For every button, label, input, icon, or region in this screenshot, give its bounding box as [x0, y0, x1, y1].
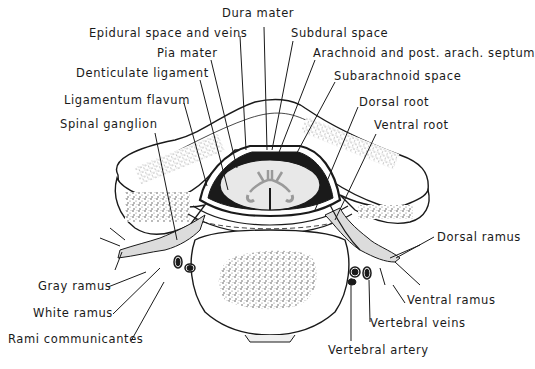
label-ventral-ramus: Ventral ramus	[407, 294, 496, 307]
label-dura-mater: Dura mater	[222, 7, 294, 20]
label-subdural-space: Subdural space	[291, 27, 388, 40]
label-gray-ramus: Gray ramus	[38, 280, 111, 293]
label-white-ramus: White ramus	[33, 307, 113, 320]
vertebral-body	[191, 230, 349, 342]
label-rami-communicantes: Rami communicantes	[8, 333, 143, 346]
spinal-cord	[220, 160, 320, 210]
label-pia-mater: Pia mater	[157, 47, 218, 60]
label-dorsal-root: Dorsal root	[359, 96, 429, 109]
label-ligamentum-flavum: Ligamentum flavum	[64, 94, 190, 107]
label-dorsal-ramus: Dorsal ramus	[437, 231, 521, 244]
label-denticulate-ligament: Denticulate ligament	[76, 67, 209, 80]
label-vertebral-veins: Vertebral veins	[370, 317, 466, 330]
label-arachnoid: Arachnoid and post. arach. septum	[313, 47, 535, 60]
label-vertebral-artery: Vertebral artery	[328, 344, 429, 357]
label-ventral-root: Ventral root	[374, 119, 449, 132]
label-spinal-ganglion: Spinal ganglion	[60, 118, 158, 131]
label-subarachnoid-space: Subarachnoid space	[334, 70, 461, 83]
label-epidural-space: Epidural space and veins	[89, 27, 247, 40]
